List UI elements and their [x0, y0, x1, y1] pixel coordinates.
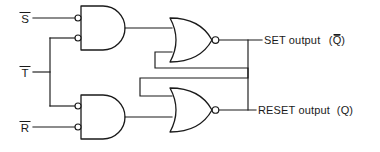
output-label-reset: RESET output (Q): [258, 104, 353, 116]
input-label-s-bar: S: [20, 13, 31, 26]
output-label-reset-text: RESET output: [258, 104, 330, 116]
gate-nor-top: [170, 18, 219, 62]
input-label-t-text: T: [21, 67, 28, 79]
output-label-set-signal: (Q̅): [329, 34, 345, 46]
gate-and-top-input-bubble-1: [75, 15, 81, 21]
gate-nor-bottom-body: [170, 88, 212, 132]
gate-and-top-body: [81, 6, 125, 50]
input-label-t-bar: T: [20, 67, 31, 80]
gate-nor-top-body: [170, 18, 212, 62]
output-label-set-text: SET output: [264, 34, 320, 46]
output-label-set: SET output (Q̅): [264, 34, 345, 46]
gate-nor-top-output-bubble: [212, 37, 219, 44]
gate-nor-bottom-output-bubble: [212, 107, 219, 114]
logic-circuit-diagram: S T R: [0, 0, 380, 152]
diagram-canvas: S T R: [0, 0, 380, 152]
output-label-reset-signal: (Q): [337, 104, 353, 116]
gate-and-top: [75, 6, 125, 50]
gate-and-bottom-body: [81, 95, 125, 139]
gate-and-top-input-bubble-2: [75, 35, 81, 41]
gate-and-bottom-input-bubble-1: [75, 103, 81, 109]
input-label-r-bar: R: [20, 122, 31, 135]
input-label-s-text: S: [21, 13, 29, 25]
gate-nor-bottom: [170, 88, 219, 132]
gate-and-bottom: [75, 95, 125, 139]
gate-and-bottom-input-bubble-2: [75, 124, 81, 130]
wire-feedback-q-to-nor-top: [155, 52, 248, 110]
input-label-r-text: R: [21, 122, 29, 134]
